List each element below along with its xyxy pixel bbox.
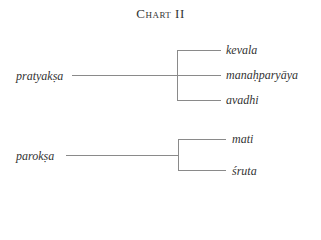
branch-label-kevala: kevala [226,43,257,57]
root-label-pratyaksa: pratyakṣa [16,69,63,83]
branch-label-sruta: śruta [232,164,257,178]
root-label-paroksa: parokṣa [16,149,54,163]
branch-label-avadhi: avadhi [226,93,259,107]
branch-label-mati: mati [232,132,253,146]
branch-label-manahparyaya: manaḥparyāya [226,68,298,82]
